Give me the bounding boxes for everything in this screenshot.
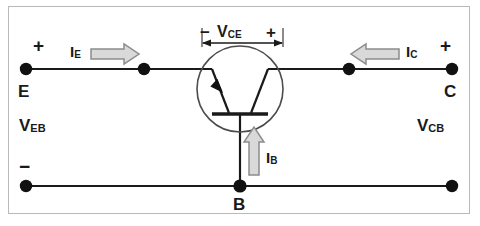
- vce-subscript: CE: [228, 29, 242, 40]
- node-dot-collector-mid: [343, 63, 355, 75]
- collector-plus-sign: +: [440, 36, 451, 55]
- ic-subscript: C: [410, 49, 417, 60]
- node-dot-collector-terminal: [446, 63, 458, 75]
- vce-plus-sign: +: [266, 24, 276, 41]
- veb-label: VEB: [19, 117, 46, 134]
- node-dot-emitter-terminal: [20, 63, 32, 75]
- veb-symbol: V: [19, 116, 30, 135]
- base-label: B: [233, 196, 245, 213]
- vce-symbol: V: [217, 23, 228, 40]
- vcb-symbol: V: [417, 116, 428, 135]
- emitter-return-minus-sign: −: [19, 157, 30, 176]
- vce-label: VCE: [217, 24, 242, 40]
- node-dot-base: [233, 179, 246, 192]
- vce-minus-sign: −: [200, 24, 210, 41]
- emitter-label: E: [18, 83, 29, 100]
- ib-label: IB: [266, 150, 277, 165]
- node-dot-emitter-mid: [138, 63, 150, 75]
- circuit-diagram-root: + E + C − B VEB VCB − VCE + IE IC IB: [0, 0, 480, 226]
- current-arrow-ie-icon: [91, 44, 139, 64]
- wire-group: [26, 69, 452, 186]
- transistor-collector-lead: [251, 69, 268, 113]
- emitter-plus-sign: +: [33, 36, 44, 55]
- veb-subscript: EB: [30, 122, 45, 134]
- node-dot-collector-return: [446, 180, 458, 192]
- current-arrow-ib-icon: [244, 127, 264, 175]
- ie-subscript: E: [74, 49, 81, 60]
- node-dot-emitter-return: [20, 180, 32, 192]
- vcb-subscript: CB: [428, 122, 444, 134]
- ic-label: IC: [406, 44, 417, 59]
- ib-subscript: B: [270, 155, 277, 166]
- transistor-emitter-arrow-icon: [212, 80, 222, 92]
- vcb-label: VCB: [417, 117, 444, 134]
- collector-label: C: [444, 83, 456, 100]
- current-arrow-ic-icon: [351, 44, 399, 64]
- ie-label: IE: [70, 44, 81, 59]
